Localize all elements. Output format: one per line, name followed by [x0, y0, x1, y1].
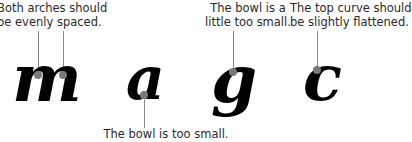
marker-m-right [59, 71, 67, 79]
annotation-a-line1: The bowl is too small. [96, 127, 236, 141]
letter-g: g [211, 46, 257, 112]
annotation-m-line2: be evenly spaced. [0, 15, 97, 29]
marker-m-left [34, 71, 42, 79]
annotation-c: The top curve should be slightly flatten… [290, 1, 374, 29]
annotation-g-line1: The bowl is a [198, 1, 298, 15]
letter-c: c [303, 46, 342, 110]
annotation-c-line2: be slightly flattened. [290, 15, 374, 29]
annotation-g: The bowl is a little too small. [198, 1, 298, 29]
letter-a: a [126, 48, 165, 108]
leader-line-a [144, 98, 145, 128]
annotation-g-line2: little too small. [198, 15, 298, 29]
marker-g-bowl [229, 68, 237, 76]
annotation-m-line1: Both arches should [0, 1, 97, 15]
annotation-m: Both arches should be evenly spaced. [0, 1, 97, 29]
letter-m: m [12, 45, 82, 111]
marker-c-top [313, 66, 321, 74]
annotation-c-line1: The top curve should [290, 1, 374, 15]
annotation-a: The bowl is too small. [96, 127, 236, 141]
